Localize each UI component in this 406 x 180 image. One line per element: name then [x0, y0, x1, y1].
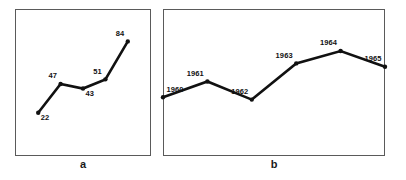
data-point-label: 1961 — [187, 69, 204, 78]
data-point-marker — [205, 79, 209, 83]
data-point-label: 47 — [49, 71, 58, 80]
data-point-marker — [338, 49, 342, 53]
panel-caption-b: b — [163, 158, 385, 170]
plot-area-a: 2247435184 — [15, 9, 151, 156]
data-point-label: 51 — [93, 67, 102, 76]
chart-panel-b: 196019611962196319641965 — [163, 9, 385, 156]
data-point-label: 1965 — [364, 54, 381, 63]
chart-panel-a: 2247435184 — [15, 9, 151, 156]
series-point-labels-b: 196019611962196319641965 — [167, 38, 382, 96]
data-point-label: 43 — [86, 89, 95, 98]
data-point-marker — [161, 95, 165, 99]
data-point-marker — [294, 61, 298, 65]
two-panel-line-chart-figure: 2247435184 a 196019611962196319641965 b — [0, 0, 406, 180]
data-point-marker — [383, 65, 387, 69]
data-point-marker — [103, 77, 107, 81]
data-point-marker — [58, 82, 62, 86]
series-point-labels-a: 2247435184 — [41, 29, 125, 122]
data-point-label: 22 — [41, 113, 50, 122]
data-point-marker — [126, 39, 130, 43]
data-point-label: 1964 — [320, 38, 338, 47]
data-point-marker — [250, 97, 254, 101]
plot-area-b: 196019611962196319641965 — [163, 9, 385, 156]
data-point-label: 1960 — [167, 85, 184, 94]
data-point-label: 1963 — [276, 51, 293, 60]
data-point-label: 1962 — [231, 87, 248, 96]
data-point-label: 84 — [116, 29, 125, 38]
panel-caption-a: a — [15, 158, 151, 170]
